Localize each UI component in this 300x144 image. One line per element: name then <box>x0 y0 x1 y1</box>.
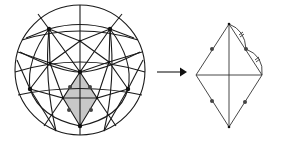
vertex-node <box>108 27 112 31</box>
geodesic-sphere <box>15 5 145 135</box>
midpoint-dot <box>210 99 214 103</box>
midpoint-dot <box>243 100 247 104</box>
flat-rhombus <box>196 23 262 129</box>
vertex-node <box>47 27 51 31</box>
midpoint-dot <box>68 85 72 89</box>
vertex-node <box>78 70 82 74</box>
midpoint-dot <box>88 85 92 89</box>
arrow-right-icon <box>157 68 187 77</box>
midpoint-dot <box>67 108 71 112</box>
geodesic-diagram <box>0 0 300 144</box>
midpoint-dot <box>244 47 248 51</box>
vertex-node <box>28 87 32 91</box>
midpoint-dot <box>210 47 214 51</box>
vertex-node <box>126 87 130 91</box>
midpoint-dot <box>89 108 93 112</box>
vertex-node <box>78 124 82 128</box>
